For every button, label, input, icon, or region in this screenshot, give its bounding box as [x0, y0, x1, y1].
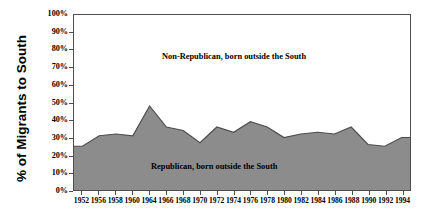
x-axis-tick-mark	[183, 191, 184, 195]
x-axis-tick-mark	[369, 191, 370, 195]
x-axis-tick-mark	[217, 191, 218, 195]
x-axis-tick-label: 1994	[390, 197, 416, 205]
y-axis-tick-label: 40%	[28, 116, 68, 124]
x-axis-tick-mark	[403, 191, 404, 195]
series-label-non-republican: Non-Republican, born outside the South	[162, 52, 306, 61]
y-axis-tick-label: 80%	[28, 45, 68, 53]
y-axis-tick-label: 20%	[28, 152, 68, 160]
x-axis-tick-mark	[200, 191, 201, 195]
y-axis-tick-mark	[69, 191, 73, 192]
x-axis-tick-mark	[386, 191, 387, 195]
y-axis-tick-label: 50%	[28, 99, 68, 107]
x-axis-tick-mark	[301, 191, 302, 195]
y-axis-tick-label: 90%	[28, 28, 68, 36]
x-axis-tick-mark	[115, 191, 116, 195]
x-axis-tick-mark	[149, 191, 150, 195]
chart-figure: % of Migrants to South 100%90%80%70%60%5…	[0, 0, 429, 221]
x-axis-tick-mark	[318, 191, 319, 195]
x-axis-tick-mark	[234, 191, 235, 195]
y-axis-tick-label: 0%	[28, 187, 68, 195]
y-axis-tick-label: 10%	[28, 169, 68, 177]
area-fill-republican	[74, 106, 410, 190]
y-axis-tick-label: 70%	[28, 63, 68, 71]
x-axis-tick-mark	[98, 191, 99, 195]
x-axis-tick-mark	[132, 191, 133, 195]
y-axis-tick-label: 100%	[28, 10, 68, 18]
x-axis-tick-mark	[267, 191, 268, 195]
series-label-republican: Republican, born outside the South	[151, 162, 277, 171]
x-axis-tick-mark	[284, 191, 285, 195]
x-axis-tick-mark	[335, 191, 336, 195]
x-axis-tick-mark	[166, 191, 167, 195]
x-axis-tick-mark	[250, 191, 251, 195]
y-axis-tick-label: 30%	[28, 134, 68, 142]
x-axis-tick-mark	[81, 191, 82, 195]
y-axis-tick-label: 60%	[28, 81, 68, 89]
x-axis-tick-mark	[352, 191, 353, 195]
